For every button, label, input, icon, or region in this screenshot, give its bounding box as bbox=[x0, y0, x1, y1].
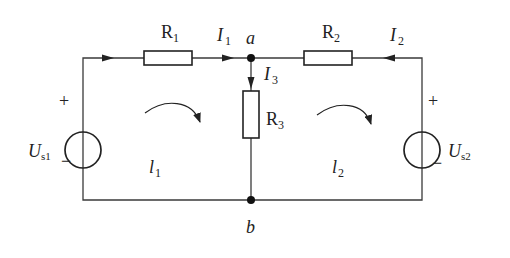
label-i3: I3 bbox=[263, 64, 278, 87]
resistor-r3 bbox=[243, 91, 259, 138]
resistor-r2 bbox=[304, 51, 352, 65]
minus-us1: − bbox=[61, 151, 71, 171]
wire-top-left bbox=[83, 58, 144, 132]
label-node-b: b bbox=[246, 217, 255, 237]
arrow-i1-icon bbox=[222, 55, 234, 62]
plus-us2: + bbox=[428, 91, 438, 111]
arrow-i3-icon bbox=[248, 77, 255, 89]
label-r1: R1 bbox=[161, 22, 179, 45]
arrow-left-top-icon bbox=[102, 55, 114, 62]
loop-arrow-l1-icon bbox=[145, 103, 200, 122]
wire-left-bottom bbox=[83, 168, 422, 200]
label-loop-l1: l1 bbox=[149, 157, 161, 180]
label-loop-l2: l2 bbox=[332, 157, 344, 180]
circuit-diagram: R1 R2 R3 I1 I2 I3 a b Us1 Us2 + − + − l1… bbox=[0, 0, 510, 258]
node-b bbox=[247, 196, 255, 204]
label-r2: R2 bbox=[322, 22, 340, 45]
arrow-i2-icon bbox=[383, 55, 395, 62]
label-us2: Us2 bbox=[448, 141, 471, 162]
node-a bbox=[247, 54, 255, 62]
plus-us1: + bbox=[59, 91, 69, 111]
label-r3: R3 bbox=[266, 109, 284, 132]
label-i2: I2 bbox=[389, 25, 404, 48]
minus-us2: − bbox=[432, 153, 442, 173]
label-node-a: a bbox=[246, 28, 255, 48]
resistor-r1 bbox=[144, 51, 192, 65]
loop-arrow-l2-icon bbox=[317, 105, 371, 124]
label-i1: I1 bbox=[216, 25, 231, 48]
wire-top-right bbox=[352, 58, 422, 132]
label-us1: Us1 bbox=[28, 141, 51, 162]
